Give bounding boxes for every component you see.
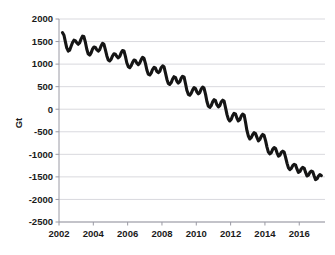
y-tick-label: -1500 [29,171,53,182]
y-axis-title: Gt [13,117,24,128]
y-tick-label: 0 [48,104,53,115]
y-tick-label: 2000 [32,13,53,24]
y-tick-label: -1000 [29,149,53,160]
x-tick-label: 2002 [48,228,69,239]
y-tick-label: 500 [37,81,53,92]
y-tick-label: -2500 [29,216,53,227]
line-chart: 2000150010005000-500-1000-1500-2000-2500… [0,0,335,255]
x-tick-label: 2006 [117,228,138,239]
x-tick-label: 2016 [289,228,310,239]
chart-figure: 2000150010005000-500-1000-1500-2000-2500… [0,0,335,255]
y-tick-label: 1500 [32,36,53,47]
y-tick-label: -2000 [29,194,53,205]
x-tick-label: 2014 [254,228,276,239]
x-tick-label: 2010 [186,228,207,239]
x-tick-label: 2008 [151,228,172,239]
y-tick-label: 1000 [32,58,53,69]
x-tick-label: 2004 [83,228,105,239]
x-tick-label: 2012 [220,228,241,239]
y-tick-label: -500 [34,126,53,137]
